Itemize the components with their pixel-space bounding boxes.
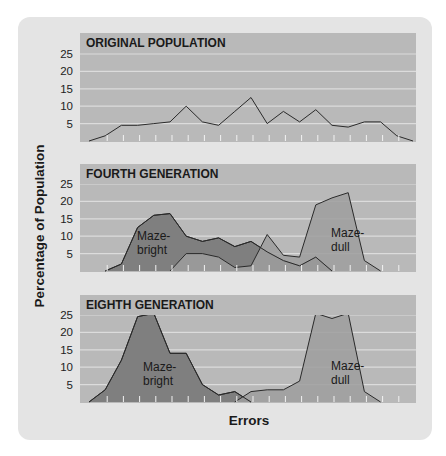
y-tick-label: 5 (67, 379, 73, 391)
y-tick-label: 10 (60, 100, 73, 112)
panel-eighth-generation: 510152025EIGHTH GENERATIONMaze-brightMaz… (60, 295, 416, 403)
maze-bright-label: bright (137, 243, 168, 257)
panel-title: FOURTH GENERATION (86, 167, 218, 181)
panel-original-population: 510152025ORIGINAL POPULATION (60, 33, 416, 142)
x-axis-label: Errors (229, 413, 270, 428)
y-tick-label: 15 (60, 344, 73, 356)
y-tick-label: 25 (60, 178, 73, 190)
maze-bright-label: Maze- (137, 229, 170, 243)
y-tick-label: 25 (60, 309, 73, 321)
y-tick-label: 10 (60, 230, 73, 242)
panel-title: ORIGINAL POPULATION (86, 36, 226, 50)
figure: 510152025ORIGINAL POPULATION 510152025FO… (0, 0, 446, 456)
panel-title: EIGHTH GENERATION (86, 298, 214, 312)
maze-bright-label: bright (143, 374, 174, 388)
maze-dull-label: dull (331, 240, 350, 254)
panel-fourth-generation: 510152025FOURTH GENERATIONMaze-brightMaz… (60, 164, 416, 272)
y-tick-label: 20 (60, 326, 73, 338)
y-tick-label: 5 (67, 248, 73, 260)
maze-dull-label: Maze- (331, 226, 364, 240)
y-axis-label: Percentage of Population (32, 145, 47, 308)
y-tick-label: 20 (60, 195, 73, 207)
y-tick-label: 20 (60, 65, 73, 77)
y-tick-label: 25 (60, 48, 73, 60)
y-tick-label: 5 (67, 118, 73, 130)
maze-dull-label: Maze- (331, 359, 364, 373)
y-tick-label: 15 (60, 213, 73, 225)
y-tick-label: 15 (60, 83, 73, 95)
maze-dull-label: dull (331, 373, 350, 387)
y-tick-label: 10 (60, 361, 73, 373)
maze-bright-label: Maze- (143, 360, 176, 374)
